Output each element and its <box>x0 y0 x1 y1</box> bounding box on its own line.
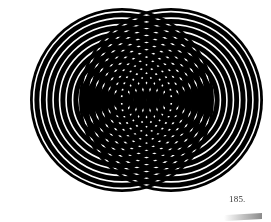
moire-figure <box>0 0 271 222</box>
right-concentric-rings <box>0 0 271 222</box>
page-number: 185. <box>229 194 246 204</box>
